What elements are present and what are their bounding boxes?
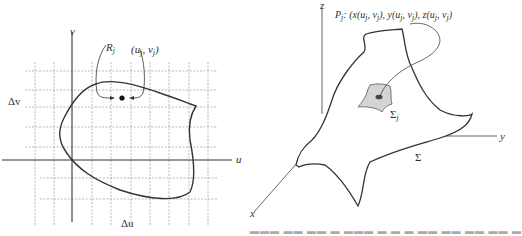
u-axis-label: u <box>236 154 242 165</box>
v-axis-label: v <box>70 26 75 37</box>
x-axis-label: x <box>250 208 255 219</box>
region-label-main: R <box>106 41 113 53</box>
figure-caption-cut: ▬▬▬ ▬▬ ▬▬ ▬ ▬▬▬ ▬ ▬ ▬ ▬▬ ▬▬ ▬▬ ▬▬ ▬ <box>250 226 522 236</box>
patch-sample-point <box>376 95 383 100</box>
y-axis-label: y <box>500 131 505 142</box>
point-label-part2: , v <box>142 43 152 55</box>
region-label-sub: j <box>113 46 115 55</box>
delta-v-label: Δv <box>8 96 21 107</box>
patch-label-sub: j <box>396 113 398 122</box>
point-label-part3: ) <box>155 43 159 55</box>
arrow-head-left <box>110 96 115 100</box>
point-coordinates-label: (uj, vj) <box>131 44 159 57</box>
grid-lines <box>25 62 218 225</box>
x-axis <box>254 163 297 212</box>
delta-u-label: Δu <box>121 218 134 229</box>
patch-label: Σj <box>390 109 399 122</box>
point-leader-line <box>132 50 144 98</box>
surface-point-label: Pj: (x(uj, vj), y(uj, vj), z(uj, vj) <box>335 10 452 22</box>
z-axis-label: z <box>320 0 324 11</box>
surface-point-rest: : (x(uj, vj), y(uj, vj), z(uj, vj) <box>343 9 452 20</box>
surface-label: Σ <box>415 152 421 163</box>
point-label-part1: (u <box>131 43 140 55</box>
region-boundary <box>60 82 196 199</box>
region-label: Rj <box>106 42 115 55</box>
arrow-head-right <box>129 96 134 100</box>
sample-point <box>119 95 124 100</box>
